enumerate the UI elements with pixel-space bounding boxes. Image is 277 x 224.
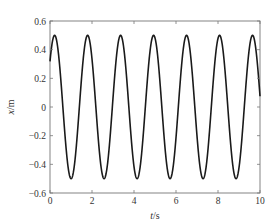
y-tick-label: −0.2 <box>29 131 46 141</box>
x-tick-label: 10 <box>255 196 265 206</box>
y-tick-label: 0.6 <box>34 17 46 27</box>
line-chart: 0.60.40.20−0.2−0.4−0.6 0246810 x/m t/s <box>0 0 277 224</box>
series-line <box>50 35 260 178</box>
x-tick-label: 2 <box>90 196 95 206</box>
y-tick-label: 0.2 <box>34 74 46 84</box>
y-tick-label: −0.6 <box>29 189 46 199</box>
y-tick-label: 0.4 <box>34 45 46 55</box>
x-tick-label: 6 <box>174 196 179 206</box>
series-layer <box>50 35 260 178</box>
x-tick-label: 0 <box>48 196 53 206</box>
x-tick-label: 4 <box>132 196 137 206</box>
x-axis-label: t/s <box>150 210 160 221</box>
y-tick-label: −0.4 <box>29 160 46 170</box>
x-tick-label: 8 <box>216 196 221 206</box>
y-tick-label: 0 <box>41 103 46 113</box>
y-axis-label: x/m <box>5 99 16 115</box>
